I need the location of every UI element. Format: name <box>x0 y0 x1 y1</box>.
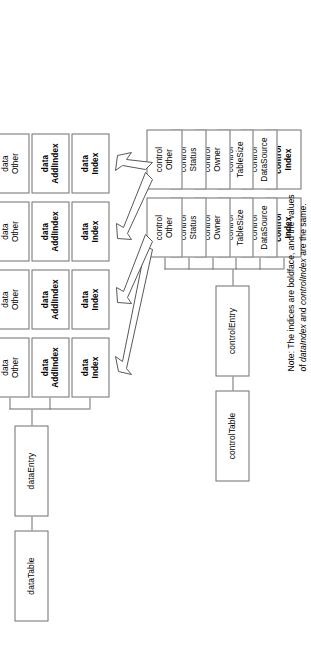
control-other-line1: control <box>154 146 164 171</box>
data-addlindex-box-4[interactable]: data AddlIndex <box>31 133 69 193</box>
data-addlindex-line1: data <box>40 290 50 307</box>
data-addlindex-line1: data <box>40 222 50 239</box>
connector-dataentry-bus <box>31 409 32 425</box>
note-italic-controlindex: controlIndex <box>297 258 307 305</box>
note-line2-part-c: are the same. <box>297 203 307 258</box>
control-entry-field-bus <box>164 268 283 269</box>
control-other-box-1[interactable]: control Other <box>146 197 182 257</box>
data-addlindex-line2: AddlIndex <box>50 211 60 251</box>
control-tablesize-line2: TableSize <box>235 141 245 177</box>
note-italic-dataindex: dataIndex <box>297 324 307 362</box>
control-status-line2: Status <box>188 215 198 239</box>
control-table-box[interactable]: controlTable <box>215 390 249 481</box>
data-addlindex-box-1[interactable]: data AddlIndex <box>31 337 69 397</box>
note-line2-part-a: of <box>297 361 307 371</box>
data-entry-box[interactable]: dataEntry <box>14 425 48 516</box>
arrow-control-other-1-to-data-index-1 <box>115 246 152 374</box>
data-table-label: dataTable <box>26 557 36 594</box>
diagram-note: Note: The indices are boldface, and the … <box>284 194 309 371</box>
data-other-box-4[interactable]: data Other <box>0 133 29 193</box>
data-index-box-2[interactable]: data Index <box>71 269 109 329</box>
data-addlindex-line2: AddlIndex <box>50 347 60 387</box>
connector-bus-control-datasource <box>259 257 260 269</box>
data-table-box[interactable]: dataTable <box>14 530 48 621</box>
data-index-line1: data <box>80 154 90 171</box>
data-other-box-2[interactable]: data Other <box>0 269 29 329</box>
control-other-line2: Other <box>164 149 174 170</box>
connector-bus-data-addlindex <box>49 397 50 409</box>
control-status-line2: Status <box>188 147 198 171</box>
connector-bus-data-other <box>9 397 10 409</box>
data-addlindex-box-3[interactable]: data AddlIndex <box>31 201 69 261</box>
control-entry-box[interactable]: controlEntry <box>215 285 249 376</box>
data-other-line2: Other <box>10 221 20 242</box>
connector-bus-control-owner <box>212 257 213 269</box>
structure-diagram: dataTable dataEntry data Index data Addl… <box>0 0 311 659</box>
data-addlindex-box-2[interactable]: data AddlIndex <box>31 269 69 329</box>
data-other-line1: data <box>0 155 10 171</box>
data-addlindex-line2: AddlIndex <box>50 143 60 183</box>
connector-bus-control-other <box>164 257 165 269</box>
data-index-line2: Index <box>90 288 100 310</box>
connector-controltable-controlentry <box>232 376 233 390</box>
data-index-line2: Index <box>90 152 100 174</box>
connector-bus-data-index <box>89 397 90 409</box>
data-other-line1: data <box>0 223 10 239</box>
data-entry-label: dataEntry <box>26 452 36 489</box>
data-other-line2: Other <box>10 289 20 310</box>
data-other-line2: Other <box>10 357 20 378</box>
data-addlindex-line2: AddlIndex <box>50 279 60 319</box>
control-entry-label: controlEntry <box>227 308 237 354</box>
data-index-line1: data <box>80 222 90 239</box>
data-addlindex-line1: data <box>40 358 50 375</box>
control-owner-line2: Owner <box>212 215 222 240</box>
data-other-line1: data <box>0 359 10 375</box>
note-line-1: Note: The indices are boldface, and the … <box>284 194 296 371</box>
note-line2-part-b: and <box>297 305 307 324</box>
control-other-box-2[interactable]: control Other <box>146 129 182 189</box>
data-other-box-3[interactable]: data Other <box>0 201 29 261</box>
data-index-line1: data <box>80 290 90 307</box>
data-other-line1: data <box>0 291 10 307</box>
data-addlindex-line1: data <box>40 154 50 171</box>
data-index-line2: Index <box>90 220 100 242</box>
control-datasource-line2: DataSource <box>259 205 269 249</box>
data-index-box-1[interactable]: data Index <box>71 337 109 397</box>
data-index-line1: data <box>80 358 90 375</box>
diagram-rotator: dataTable dataEntry data Index data Addl… <box>0 0 311 659</box>
connector-datatable-dataentry <box>31 516 32 530</box>
data-other-box-1[interactable]: data Other <box>0 337 29 397</box>
control-index-line2: Index <box>283 148 293 170</box>
data-index-box-4[interactable]: data Index <box>71 133 109 193</box>
control-other-line2: Other <box>164 217 174 238</box>
connector-controlentry-bus <box>232 269 233 285</box>
control-tablesize-line2: TableSize <box>235 209 245 245</box>
data-index-box-3[interactable]: data Index <box>71 201 109 261</box>
control-other-line1: control <box>154 214 164 239</box>
note-line-2: of dataIndex and controlIndex are the sa… <box>296 194 308 371</box>
control-table-label: controlTable <box>227 412 237 458</box>
control-datasource-line2: DataSource <box>259 137 269 181</box>
data-index-line2: Index <box>90 356 100 378</box>
connector-bus-control-status <box>188 257 189 269</box>
data-other-line2: Other <box>10 153 20 174</box>
connector-bus-control-tablesize <box>235 257 236 269</box>
control-owner-line2: Owner <box>212 147 222 172</box>
